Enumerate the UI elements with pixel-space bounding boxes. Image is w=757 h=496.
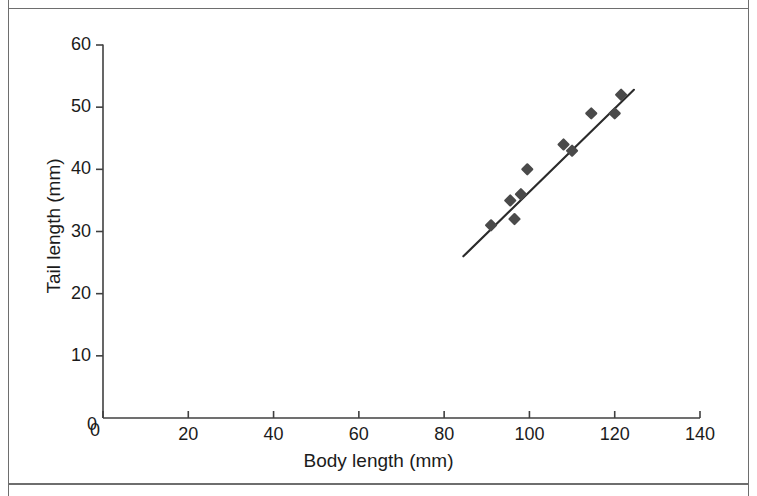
trendline <box>463 90 634 257</box>
x-tick-label: 80 <box>414 424 474 445</box>
y-tick-label: 0 <box>37 414 97 435</box>
x-tick-label: 100 <box>499 424 559 445</box>
y-tick-label: 60 <box>31 34 91 55</box>
x-tick-label: 40 <box>244 424 304 445</box>
data-point-marker <box>514 188 527 201</box>
data-point-marker <box>608 107 621 120</box>
trendline-segment <box>463 90 634 257</box>
data-point-marker <box>585 107 598 120</box>
data-point-marker <box>521 163 534 176</box>
x-tick-label: 140 <box>670 424 730 445</box>
x-axis-title: Body length (mm) <box>0 450 757 472</box>
x-tick-label: 20 <box>158 424 218 445</box>
data-markers-group <box>485 88 628 232</box>
data-point-marker <box>485 219 498 232</box>
data-point-marker <box>508 213 521 226</box>
axes-group <box>96 45 700 419</box>
data-point-marker <box>615 88 628 101</box>
x-tick-label: 60 <box>329 424 389 445</box>
x-tick-label: 120 <box>585 424 645 445</box>
figure-root: 020406080100120140 0102030405060 Body le… <box>0 0 757 496</box>
y-axis-title: Tail length (mm) <box>43 76 65 376</box>
